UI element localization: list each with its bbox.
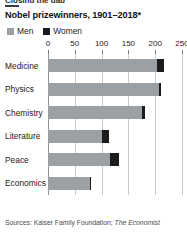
bar-segment-women [157,59,163,72]
bar-segment-women [142,106,145,119]
bar-segment-women [110,153,119,166]
legend-label-men: Men [17,26,33,36]
clipped-headline: Closing the gap [5,0,182,3]
x-tick-label: 0 [46,39,50,48]
chart-legend: Men Women [5,26,182,36]
x-tick-label: 50 [70,39,79,48]
x-tick-label: 200 [149,39,162,48]
source-text: Sources: Kaiser Family Foundation; [5,219,115,226]
gridline [182,54,183,195]
bar-segment-women [159,83,161,96]
bar-segment-men [48,153,110,166]
x-tick-label: 150 [122,39,135,48]
plot-area: 050100150200250 MedicinePhysicsChemistry… [5,39,182,195]
legend-label-women: Women [53,26,82,36]
title-rule [5,5,19,7]
bar-segment-men [48,83,159,96]
bar-row[interactable] [5,153,182,166]
chart-container: Closing the gap Nobel prizewinners, 1901… [0,0,187,229]
bar-row[interactable] [5,130,182,143]
square-swatch-men-icon [7,28,14,35]
bar-row[interactable] [5,59,182,72]
bar-segment-women [102,130,110,143]
x-tick-label: 100 [95,39,108,48]
source-publication: The Economist [115,219,160,226]
square-swatch-women-icon [43,28,50,35]
bar-segment-women [90,177,91,190]
source-note: Sources: Kaiser Family Foundation; The E… [5,219,160,226]
bar-row[interactable] [5,83,182,96]
bar-row[interactable] [5,177,182,190]
bar-segment-men [48,106,142,119]
bar-segment-men [48,177,90,190]
bar-segment-men [48,130,102,143]
bar-row[interactable] [5,106,182,119]
bar-segment-men [48,59,157,72]
legend-item-women[interactable]: Women [43,26,82,36]
x-tick-label: 250 [175,39,187,48]
chart-title: Nobel prizewinners, 1901–2018* [5,10,182,21]
bars-layer: MedicinePhysicsChemistryLiteraturePeaceE… [5,54,182,195]
legend-item-men[interactable]: Men [7,26,33,36]
x-axis-tick-labels: 050100150200250 [5,39,182,50]
